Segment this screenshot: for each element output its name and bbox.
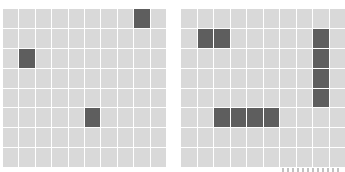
empty-cell[interactable]	[151, 49, 166, 68]
empty-cell[interactable]	[134, 148, 149, 167]
empty-cell[interactable]	[52, 69, 67, 88]
empty-cell[interactable]	[19, 128, 34, 147]
empty-cell[interactable]	[297, 69, 313, 88]
empty-cell[interactable]	[36, 89, 51, 108]
empty-cell[interactable]	[69, 128, 84, 147]
empty-cell[interactable]	[19, 148, 34, 167]
empty-cell[interactable]	[280, 69, 296, 88]
empty-cell[interactable]	[198, 108, 214, 127]
empty-cell[interactable]	[118, 148, 133, 167]
empty-cell[interactable]	[19, 89, 34, 108]
empty-cell[interactable]	[19, 108, 34, 127]
empty-cell[interactable]	[214, 49, 230, 68]
empty-cell[interactable]	[52, 9, 67, 28]
empty-cell[interactable]	[264, 148, 280, 167]
empty-cell[interactable]	[181, 29, 197, 48]
empty-cell[interactable]	[3, 108, 18, 127]
filled-cell[interactable]	[198, 29, 214, 48]
empty-cell[interactable]	[134, 89, 149, 108]
empty-cell[interactable]	[181, 9, 197, 28]
empty-cell[interactable]	[52, 108, 67, 127]
empty-cell[interactable]	[151, 9, 166, 28]
empty-cell[interactable]	[69, 29, 84, 48]
empty-cell[interactable]	[85, 29, 100, 48]
empty-cell[interactable]	[134, 29, 149, 48]
empty-cell[interactable]	[181, 89, 197, 108]
empty-cell[interactable]	[3, 89, 18, 108]
empty-cell[interactable]	[181, 69, 197, 88]
empty-cell[interactable]	[264, 49, 280, 68]
empty-cell[interactable]	[36, 128, 51, 147]
empty-cell[interactable]	[3, 29, 18, 48]
empty-cell[interactable]	[280, 128, 296, 147]
empty-cell[interactable]	[36, 49, 51, 68]
empty-cell[interactable]	[280, 89, 296, 108]
empty-cell[interactable]	[264, 69, 280, 88]
empty-cell[interactable]	[330, 29, 345, 48]
empty-cell[interactable]	[330, 108, 345, 127]
empty-cell[interactable]	[118, 128, 133, 147]
empty-cell[interactable]	[36, 29, 51, 48]
empty-cell[interactable]	[280, 9, 296, 28]
empty-cell[interactable]	[19, 69, 34, 88]
filled-cell[interactable]	[313, 89, 329, 108]
empty-cell[interactable]	[264, 128, 280, 147]
empty-cell[interactable]	[3, 128, 18, 147]
empty-cell[interactable]	[118, 9, 133, 28]
empty-cell[interactable]	[118, 108, 133, 127]
empty-cell[interactable]	[85, 69, 100, 88]
empty-cell[interactable]	[330, 9, 345, 28]
empty-cell[interactable]	[231, 9, 247, 28]
empty-cell[interactable]	[330, 69, 345, 88]
empty-cell[interactable]	[19, 29, 34, 48]
empty-cell[interactable]	[313, 128, 329, 147]
empty-cell[interactable]	[330, 49, 345, 68]
empty-cell[interactable]	[313, 148, 329, 167]
empty-cell[interactable]	[101, 108, 116, 127]
empty-cell[interactable]	[19, 9, 34, 28]
empty-cell[interactable]	[151, 128, 166, 147]
empty-cell[interactable]	[101, 128, 116, 147]
filled-cell[interactable]	[134, 9, 149, 28]
empty-cell[interactable]	[181, 128, 197, 147]
filled-cell[interactable]	[313, 69, 329, 88]
filled-cell[interactable]	[247, 108, 263, 127]
empty-cell[interactable]	[85, 9, 100, 28]
empty-cell[interactable]	[151, 89, 166, 108]
empty-cell[interactable]	[69, 9, 84, 28]
empty-cell[interactable]	[36, 108, 51, 127]
empty-cell[interactable]	[181, 148, 197, 167]
empty-cell[interactable]	[198, 128, 214, 147]
empty-cell[interactable]	[69, 89, 84, 108]
empty-cell[interactable]	[101, 9, 116, 28]
empty-cell[interactable]	[101, 148, 116, 167]
empty-cell[interactable]	[297, 128, 313, 147]
empty-cell[interactable]	[280, 49, 296, 68]
empty-cell[interactable]	[85, 148, 100, 167]
filled-cell[interactable]	[231, 108, 247, 127]
empty-cell[interactable]	[69, 49, 84, 68]
empty-cell[interactable]	[101, 89, 116, 108]
empty-cell[interactable]	[297, 49, 313, 68]
empty-cell[interactable]	[231, 29, 247, 48]
empty-cell[interactable]	[214, 128, 230, 147]
filled-cell[interactable]	[214, 108, 230, 127]
filled-cell[interactable]	[19, 49, 34, 68]
empty-cell[interactable]	[3, 49, 18, 68]
empty-cell[interactable]	[247, 69, 263, 88]
empty-cell[interactable]	[264, 9, 280, 28]
empty-cell[interactable]	[101, 29, 116, 48]
empty-cell[interactable]	[151, 148, 166, 167]
empty-cell[interactable]	[52, 148, 67, 167]
filled-cell[interactable]	[85, 108, 100, 127]
empty-cell[interactable]	[231, 148, 247, 167]
empty-cell[interactable]	[231, 89, 247, 108]
empty-cell[interactable]	[297, 148, 313, 167]
empty-cell[interactable]	[3, 9, 18, 28]
empty-cell[interactable]	[247, 49, 263, 68]
empty-cell[interactable]	[330, 89, 345, 108]
empty-cell[interactable]	[69, 108, 84, 127]
filled-cell[interactable]	[214, 29, 230, 48]
empty-cell[interactable]	[198, 9, 214, 28]
empty-cell[interactable]	[214, 9, 230, 28]
